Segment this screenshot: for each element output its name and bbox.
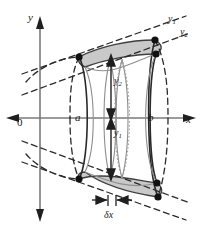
dot-right-bottom-inner <box>153 179 160 186</box>
y-axis-label: y <box>28 12 33 23</box>
inner-curve-label-sub: 2 <box>184 31 187 38</box>
dx-arrow-left <box>96 196 106 204</box>
y2-line-mirror <box>22 141 190 203</box>
inner-radius-label: y1 <box>114 128 122 139</box>
dot-right-top-inner <box>152 50 159 57</box>
back-ellipse-a-bottom <box>70 118 79 179</box>
inner-curve-label: y2 <box>180 27 188 38</box>
y-axis-arrow-down <box>36 209 44 222</box>
back-ellipse-a-top <box>70 57 79 118</box>
dot-left-top <box>75 53 82 60</box>
top-shaded-band <box>78 40 161 67</box>
origin-label: 0 <box>17 117 23 128</box>
dot-left-bottom <box>75 175 82 182</box>
diagram-svg <box>0 0 201 234</box>
inner-cavity-curves <box>85 54 157 186</box>
dot-right-bottom-outer <box>154 193 161 200</box>
thickness-indicator <box>92 195 132 206</box>
outer-curve-label: y1 <box>168 14 176 25</box>
x-axis-label: x <box>186 114 191 125</box>
outer-radius-label-sub: 2 <box>118 80 121 87</box>
y-axis-arrow-up <box>36 16 44 29</box>
lower-limit-label: a <box>75 112 81 123</box>
outer-curve-label-sub: 1 <box>172 18 175 25</box>
radius-arrow-y2 <box>107 55 115 120</box>
shell-right-wall-ellipse <box>122 60 128 178</box>
dot-right-top-outer <box>151 36 158 43</box>
y1-line <box>22 16 186 74</box>
thickness-label: δx <box>104 210 113 220</box>
upper-limit-label: b <box>148 112 154 123</box>
figure-canvas: y x 0 a b y1 y2 y2 y1 δx <box>0 0 201 234</box>
shell-left-wall-outer <box>104 60 110 178</box>
dx-arrow-right <box>118 196 128 204</box>
inner-surface-left <box>85 67 93 172</box>
outer-radius-label: y2 <box>114 76 122 87</box>
inner-radius-label-sub: 1 <box>118 132 121 139</box>
